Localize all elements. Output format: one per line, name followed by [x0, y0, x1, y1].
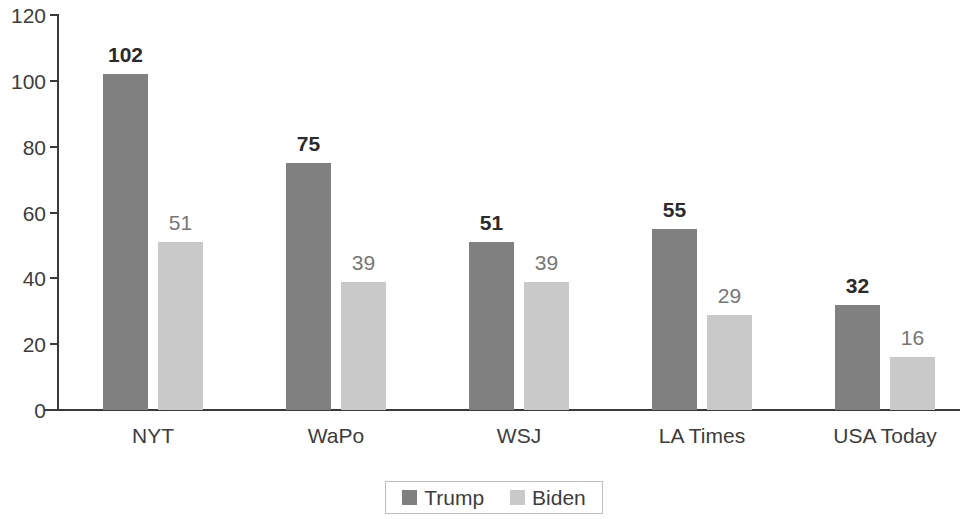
bar-trump-wsj — [469, 242, 514, 410]
legend-swatch-biden-icon — [510, 490, 525, 505]
bar-biden-nyt — [158, 242, 203, 410]
y-axis-tick-label: 0 — [0, 400, 46, 421]
bar-value-label: 29 — [692, 285, 767, 306]
bar-value-label: 55 — [637, 199, 712, 220]
chart-legend: Trump Biden — [385, 481, 603, 514]
bar-trump-nyt — [103, 74, 148, 410]
bar-value-label: 102 — [88, 44, 163, 65]
bar-biden-la-times — [707, 315, 752, 410]
legend-label-biden: Biden — [532, 487, 586, 508]
bar-value-label: 16 — [875, 327, 950, 348]
y-axis-tick-label: 100 — [0, 71, 46, 92]
bar-trump-la-times — [652, 229, 697, 410]
category-label-usa-today: USA Today — [805, 425, 965, 446]
category-label-nyt: NYT — [73, 425, 233, 446]
bar-biden-usa-today — [890, 357, 935, 410]
y-axis-tick-label: 20 — [0, 334, 46, 355]
bar-value-label: 51 — [143, 212, 218, 233]
bar-biden-wapo — [341, 282, 386, 410]
bar-biden-wsj — [524, 282, 569, 410]
bar-chart: 020406080100120 102517539513955293216 NY… — [0, 0, 968, 519]
category-label-wsj: WSJ — [439, 425, 599, 446]
bar-trump-wapo — [286, 163, 331, 410]
plot-area: 102517539513955293216 — [58, 15, 960, 410]
y-axis-tick-label: 120 — [0, 5, 46, 26]
bar-value-label: 51 — [454, 212, 529, 233]
bar-value-label: 32 — [820, 275, 895, 296]
bar-trump-usa-today — [835, 305, 880, 410]
bar-value-label: 39 — [509, 252, 584, 273]
legend-swatch-trump-icon — [402, 490, 417, 505]
legend-label-trump: Trump — [424, 487, 484, 508]
category-label-wapo: WaPo — [256, 425, 416, 446]
category-label-la-times: LA Times — [622, 425, 782, 446]
bar-value-label: 75 — [271, 133, 346, 154]
y-axis-tick-label: 40 — [0, 268, 46, 289]
y-axis-tick-label: 60 — [0, 203, 46, 224]
legend-entry-biden: Biden — [510, 487, 586, 508]
bar-value-label: 39 — [326, 252, 401, 273]
y-axis-tick-label: 80 — [0, 137, 46, 158]
legend-entry-trump: Trump — [402, 487, 484, 508]
